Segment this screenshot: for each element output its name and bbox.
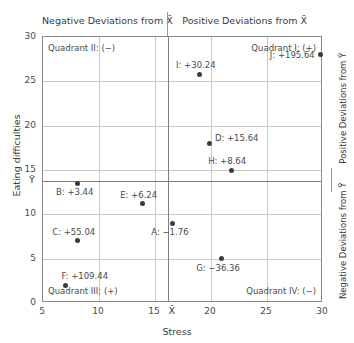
y-axis-title: Eating difficulties xyxy=(11,86,22,226)
x-tick-label: 20 xyxy=(204,307,215,316)
data-point-b[interactable] xyxy=(75,181,80,186)
scatter-plot-figure: Negative Deviations from X̄ Positive Dev… xyxy=(0,0,354,343)
y-mean-tick-label: Ȳ xyxy=(29,175,35,185)
gridline-horizontal xyxy=(43,259,321,260)
gridline-vertical xyxy=(211,37,212,301)
quadrant-2-caption: Quadrant II: (−) xyxy=(48,44,115,53)
gridline-horizontal xyxy=(43,170,321,171)
data-point-label-j: J: +195.64 xyxy=(270,51,315,60)
x-axis-title: Stress xyxy=(0,326,354,337)
y-mean-line xyxy=(43,181,321,182)
y-tick-label: 5 xyxy=(18,253,36,262)
data-point-label-a: A: −1.76 xyxy=(151,228,188,237)
quadrant-4-caption: Quadrant IV: (−) xyxy=(246,287,316,296)
data-point-label-d: D: +15.64 xyxy=(215,134,259,143)
data-point-label-i: I: +30.24 xyxy=(176,61,216,70)
y-tick-label: 30 xyxy=(18,32,36,41)
data-point-f[interactable] xyxy=(63,283,68,288)
data-point-a[interactable] xyxy=(170,221,175,226)
right-bottom-annotation: Negative Deviations from Ȳ xyxy=(339,180,348,302)
y-tick-label: 25 xyxy=(18,76,36,85)
data-point-h[interactable] xyxy=(229,168,234,173)
data-point-i[interactable] xyxy=(197,72,202,77)
data-point-label-c: C: +55.04 xyxy=(52,228,95,237)
quadrant-3-caption: Quadrant III: (+) xyxy=(48,287,118,296)
x-tick-label: 10 xyxy=(92,307,103,316)
top-left-annotation: Negative Deviations from X̄ xyxy=(42,16,167,26)
data-point-e[interactable] xyxy=(140,201,145,206)
x-mean-tick-label: X̄ xyxy=(168,306,175,316)
gridline-vertical xyxy=(99,37,100,301)
top-right-annotation: Positive Deviations from X̄ xyxy=(167,16,322,26)
data-point-label-g: G: −36.36 xyxy=(196,264,240,273)
top-separator-line xyxy=(167,12,168,36)
x-mean-line xyxy=(168,37,169,301)
data-point-label-h: H: +8.64 xyxy=(208,157,246,166)
y-tick-label: 0 xyxy=(18,298,36,307)
gridline-horizontal xyxy=(43,81,321,82)
data-point-j[interactable] xyxy=(318,52,323,57)
x-tick-label: 5 xyxy=(39,307,45,316)
gridline-vertical xyxy=(155,37,156,301)
data-point-label-f: F: +109.44 xyxy=(61,272,108,281)
x-tick-label: 30 xyxy=(316,307,327,316)
x-tick-label: 15 xyxy=(148,307,159,316)
gridline-horizontal xyxy=(43,214,321,215)
right-top-annotation: Positive Deviations from Ȳ xyxy=(339,36,348,180)
data-point-label-e: E: +6.24 xyxy=(120,191,157,200)
gridline-vertical xyxy=(267,37,268,301)
plot-area: Quadrant II: (−)Quadrant I: (+)Quadrant … xyxy=(42,36,322,302)
data-point-g[interactable] xyxy=(219,256,224,261)
right-separator-line xyxy=(331,168,332,192)
data-point-label-b: B: +3.44 xyxy=(56,188,93,197)
x-tick-label: 25 xyxy=(260,307,271,316)
data-point-c[interactable] xyxy=(75,238,80,243)
gridline-horizontal xyxy=(43,126,321,127)
